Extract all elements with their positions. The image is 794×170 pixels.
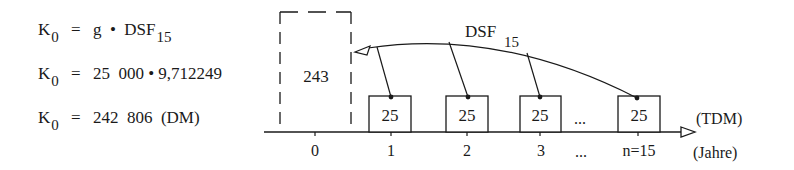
period-label-n: n=15 (622, 142, 655, 159)
payment-box-n: 25 (618, 96, 660, 132)
period-label-0: 0 (311, 142, 319, 159)
present-value-box: 243 (280, 12, 351, 132)
payment-box-3: 25 (520, 96, 561, 132)
timeline-diagram: 243 25 25 25 ... 25 (0, 0, 794, 170)
period-label-1: 1 (387, 142, 395, 159)
svg-text:25: 25 (459, 106, 476, 125)
period-ellipsis: ... (575, 143, 587, 160)
payment-dots (389, 95, 640, 101)
period-label-2: 2 (463, 142, 471, 159)
svg-text:25: 25 (532, 106, 549, 125)
axis-arrow-icon (681, 127, 695, 137)
value-unit-label: (TDM) (696, 110, 742, 128)
box-ellipsis: ... (574, 110, 586, 127)
discount-arc (368, 42, 637, 98)
svg-text:25: 25 (631, 106, 648, 125)
discount-arrow-icon (355, 46, 370, 55)
discount-factor-label: DSF (465, 22, 496, 41)
period-label-3: 3 (537, 142, 545, 159)
payment-box-2: 25 (446, 96, 488, 132)
axis-unit-label: (Jahre) (693, 144, 737, 162)
present-value-label: 243 (303, 67, 329, 86)
payment-box-1: 25 (369, 96, 411, 132)
discount-factor-subscript: 15 (504, 34, 519, 50)
svg-text:25: 25 (382, 106, 399, 125)
